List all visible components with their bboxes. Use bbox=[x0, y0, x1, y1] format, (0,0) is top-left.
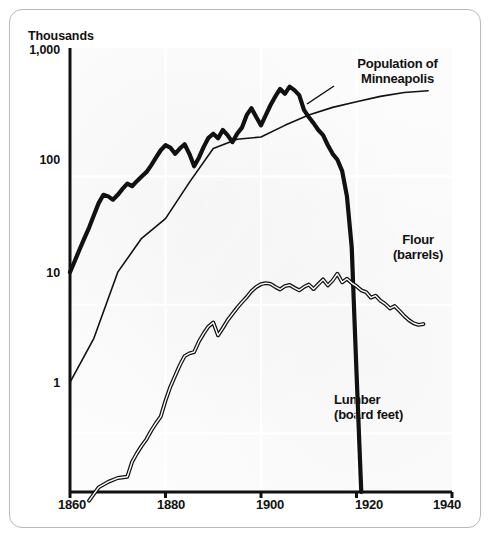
gridlines bbox=[70, 48, 452, 492]
chart-canvas bbox=[0, 0, 492, 539]
series-Flour (barrels) bbox=[89, 274, 423, 501]
series-Population of Minneapolis bbox=[70, 91, 428, 383]
chart-figure: Thousands 1,000 100 10 1 1860 1880 1900 … bbox=[0, 0, 492, 539]
data-series-layer bbox=[70, 87, 428, 501]
leader-line-population bbox=[307, 86, 334, 104]
leader-lines bbox=[307, 86, 334, 104]
